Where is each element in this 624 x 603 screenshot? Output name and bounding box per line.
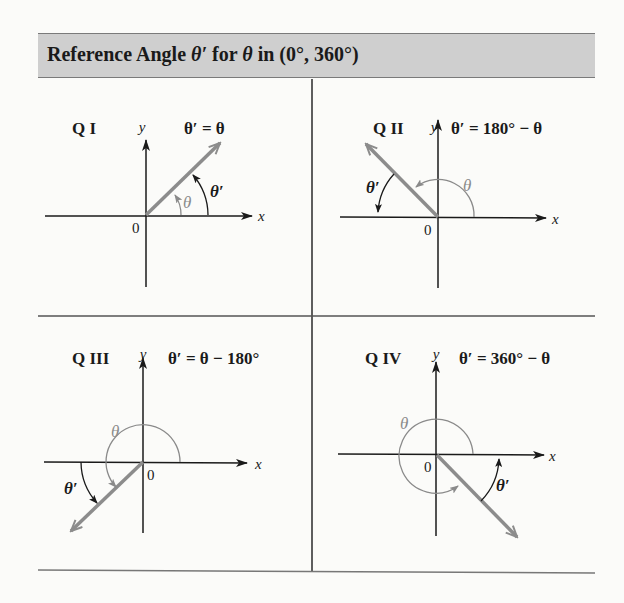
bottom-rule xyxy=(38,570,595,573)
origin-label: 0 xyxy=(424,222,432,238)
x-axis-label: x xyxy=(551,211,559,227)
quadrant-label: Q IV xyxy=(365,349,402,368)
x-axis xyxy=(340,217,546,218)
quadrant-label: Q II xyxy=(373,119,404,138)
reference-angle-label: θ′ xyxy=(496,476,510,495)
reference-angle-arc xyxy=(81,462,97,503)
quadrant-label: Q III xyxy=(72,349,110,368)
theta-label: θ xyxy=(111,422,119,441)
x-axis xyxy=(338,454,544,455)
reference-angle-label: θ′ xyxy=(64,479,78,498)
formula: θ′ = θ − 180° xyxy=(168,349,259,368)
theta-label: θ xyxy=(463,176,471,195)
formula: θ′ = 180° − θ xyxy=(451,119,542,138)
origin-label: 0 xyxy=(424,459,432,475)
x-axis-label: x xyxy=(254,456,262,472)
formula: θ′ = 360° − θ xyxy=(459,349,550,368)
x-axis-label: x xyxy=(257,208,265,224)
quadrant-2-panel: Q II y θ′ = 180° − θ x 0 θ θ′ xyxy=(340,119,559,288)
x-axis xyxy=(44,462,247,463)
quadrant-1-panel: Q I y θ′ = θ x 0 θ θ′ xyxy=(45,119,265,287)
theta-label: θ xyxy=(400,414,408,433)
quadrant-3-panel: Q III y θ′ = θ − 180° x 0 θ θ′ xyxy=(44,346,262,533)
reference-angle-arc xyxy=(193,175,208,215)
terminal-ray xyxy=(437,455,517,537)
reference-angle-diagrams: Q I y θ′ = θ x 0 θ θ′ Q II y θ′ = 180° −… xyxy=(0,0,624,603)
theta-label: θ xyxy=(183,193,191,212)
y-axis-label: y xyxy=(431,346,440,362)
origin-label: 0 xyxy=(132,220,140,236)
reference-angle-arc xyxy=(378,174,394,212)
x-axis-label: x xyxy=(548,448,556,464)
reference-angle-label: θ′ xyxy=(366,178,380,197)
y-axis-label: y xyxy=(429,119,438,135)
y-axis-label: y xyxy=(138,346,147,362)
quadrant-label: Q I xyxy=(72,119,96,138)
theta-arc xyxy=(175,195,181,215)
origin-label: 0 xyxy=(147,467,155,483)
quadrant-4-panel: Q IV y θ′ = 360° − θ x 0 θ θ′ xyxy=(338,346,556,537)
y-axis-label: y xyxy=(137,119,146,135)
reference-angle-label: θ′ xyxy=(210,182,224,201)
formula: θ′ = θ xyxy=(184,119,225,138)
